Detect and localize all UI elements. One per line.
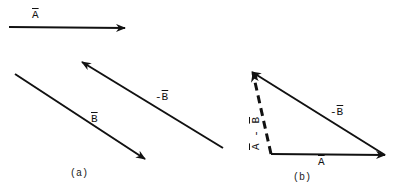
triangle-vector-neg-b-arrow [252, 72, 385, 155]
vector-neg-b-label-text: B [162, 91, 169, 103]
triangle-vector-neg-b-label-text: B [337, 106, 344, 118]
vector-b-label-text: B [91, 113, 98, 125]
vector-b-arrow [15, 74, 145, 159]
vector-neg-b-label: -B [155, 92, 168, 103]
triangle-vector-a-label-text: A [318, 156, 325, 168]
minus-sign: - [330, 106, 337, 118]
panel-a-caption: (a) [70, 168, 88, 179]
triangle-vector-neg-b-label: -B [330, 107, 343, 118]
a-minus-b-label-op: - [250, 124, 262, 144]
triangle-vector-a-arrow [271, 154, 385, 155]
vector-neg-b-arrow [82, 62, 223, 148]
vector-diagram [0, 0, 402, 195]
a-minus-b-label-a: A [250, 143, 262, 150]
minus-sign: - [155, 91, 162, 103]
a-minus-b-label-b: B [250, 117, 262, 124]
vector-a-label-text: A [32, 9, 39, 21]
vector-subtraction-figure: A B -B (a) A -B A - B (b) [0, 0, 402, 195]
vector-a-label: A [32, 10, 39, 21]
triangle-vector-a-label: A [318, 157, 325, 168]
vector-a-arrow [9, 27, 125, 28]
vector-b-label: B [91, 114, 98, 125]
a-minus-b-label: A - B [251, 117, 262, 150]
panel-b-caption: (b) [293, 172, 311, 183]
